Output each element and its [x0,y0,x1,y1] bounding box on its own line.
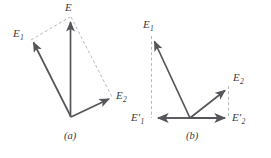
label-a-e2-base: E [116,89,123,101]
label-b-e1-prime: E′1 [131,112,144,123]
label-b-e1-base: E [143,18,150,30]
label-a-e2-subscript: 2 [123,95,127,104]
vector-diagram-figure: E1 E2 E (a) E1 E2 E′1 E′2 (b) [0,0,271,158]
label-b-e2-prime: E′2 [232,112,245,123]
label-a-resultant-e-base: E [65,1,72,13]
label-b-e2-subscript: 2 [240,77,244,86]
panel-b-group [152,36,229,118]
panel-a-group [31,17,112,117]
label-a-e1: E1 [13,28,23,39]
vector-a-e2 [71,99,109,117]
panel-b-caption: (b) [186,131,198,142]
label-b-e1: E1 [143,19,153,30]
vector-b-e2 [190,91,225,119]
label-b-e1-prime-subscript: 1 [140,117,144,126]
dashed-e-to-e2 [71,17,112,97]
dashed-e1-to-e [31,17,70,40]
vector-a-e1 [34,43,72,118]
label-a-resultant-e: E [65,2,72,13]
label-b-e2: E2 [233,72,243,83]
label-b-e2-prime-base: E [232,111,239,123]
label-a-e2: E2 [116,90,126,101]
label-a-e1-base: E [13,27,20,39]
label-b-e1-subscript: 1 [150,24,154,33]
label-b-e2-base: E [233,71,240,83]
label-b-e2-prime-subscript: 2 [241,117,245,126]
vector-b-e1 [155,42,191,119]
label-b-e1-prime-base: E [131,111,138,123]
vector-canvas [0,0,271,158]
label-a-e1-subscript: 1 [20,33,24,42]
panel-a-caption: (a) [64,131,76,142]
